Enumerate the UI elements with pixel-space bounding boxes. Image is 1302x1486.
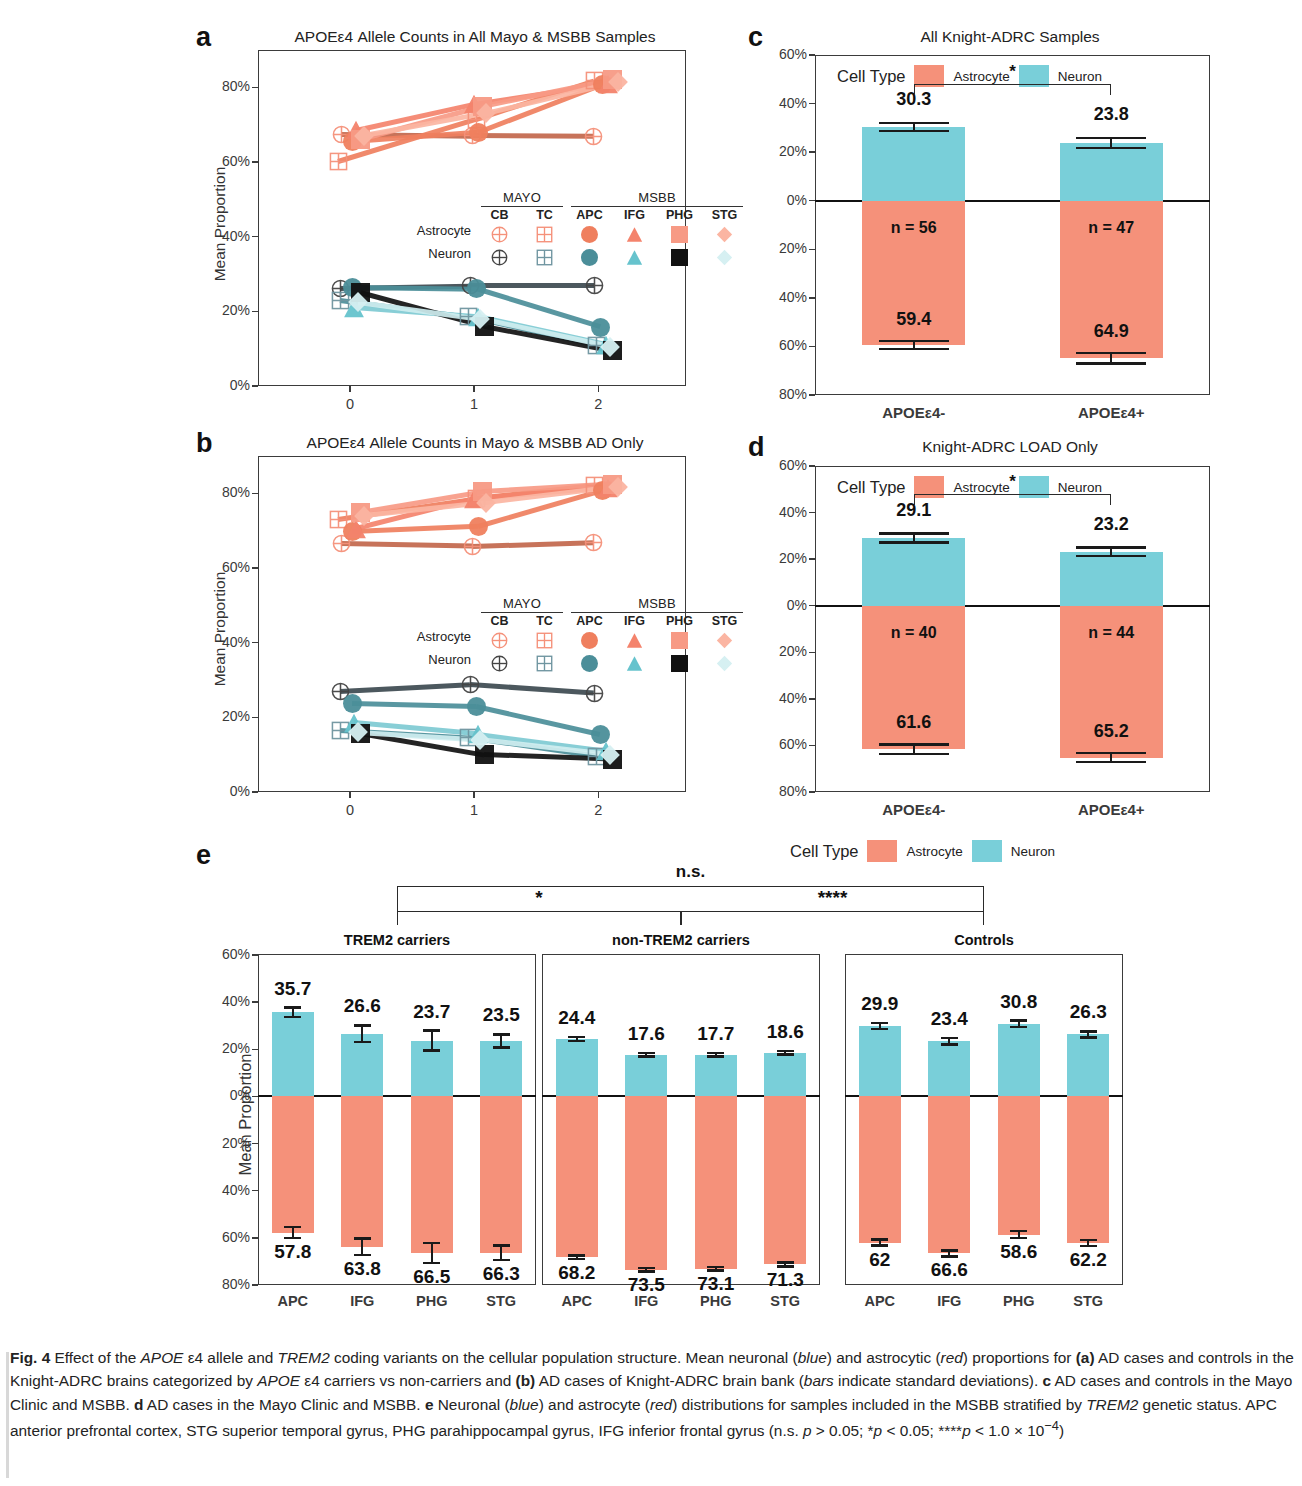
bar-neuron [625, 1055, 667, 1096]
error-bar-cap [777, 1050, 794, 1052]
sample-size-label: n = 44 [1061, 624, 1161, 642]
caption-run: blue [798, 1349, 827, 1366]
bar-astrocyte [411, 1096, 453, 1253]
error-bar-cap [871, 1022, 888, 1024]
error-bar-cap [354, 1237, 371, 1239]
caption-run: Effect of the [50, 1349, 140, 1366]
bar-neuron [272, 1012, 314, 1096]
bar-neuron [556, 1039, 598, 1097]
bar-neuron [998, 1024, 1040, 1097]
caption-run: TREM2 [278, 1349, 330, 1366]
panel-e-cell-type-legend: Cell TypeAstrocyteNeuron [790, 840, 1055, 862]
error-bar-line [431, 1031, 433, 1051]
bar-value-label: 59.4 [864, 309, 964, 330]
error-bar-cap [941, 1255, 958, 1257]
y-tick-label: 60% [194, 946, 250, 962]
x-category-label: STG [735, 1293, 835, 1309]
error-bar-cap [284, 1016, 301, 1018]
error-bar-cap [1010, 1019, 1027, 1021]
caption-run: (b) [516, 1372, 536, 1389]
bar-value-label: 61.6 [864, 712, 964, 733]
legend-swatch-astrocyte [867, 840, 897, 862]
caption-run: < 1.0 × 10 [971, 1422, 1045, 1439]
bar-astrocyte [859, 1096, 901, 1242]
facet-strip-label: TREM2 carriers [258, 925, 536, 955]
error-bar-cap [1010, 1026, 1027, 1028]
caption-run: p [874, 1422, 883, 1439]
error-bar-cap [493, 1259, 510, 1261]
bar-astrocyte [1067, 1096, 1109, 1243]
caption-run: ) and astrocyte ( [539, 1396, 650, 1413]
error-bar-cap [1010, 1230, 1027, 1232]
bar-astrocyte [272, 1096, 314, 1232]
error-bar-cap [871, 1028, 888, 1030]
significance-label: * [973, 472, 1053, 492]
panel-e-data-layer: Cell TypeAstrocyteNeuron60%40%20%0%20%40… [0, 0, 1302, 1340]
error-bar-cap [568, 1036, 585, 1038]
significance-bracket [681, 911, 984, 925]
facet-strip-label: non-TREM2 carriers [542, 925, 820, 955]
bar-astrocyte [341, 1096, 383, 1246]
caption-run: ) [1059, 1422, 1064, 1439]
caption-run: APOE [257, 1372, 300, 1389]
error-bar-cap [638, 1270, 655, 1272]
sample-size-label: n = 56 [864, 219, 964, 237]
significance-label: **** [763, 887, 903, 909]
bar-astrocyte [480, 1096, 522, 1252]
error-bar-cap [1080, 1245, 1097, 1247]
y-tick-label: 40% [194, 1182, 250, 1198]
caption-run: red [650, 1396, 672, 1413]
bar-neuron [1067, 1034, 1109, 1096]
error-bar-cap [871, 1244, 888, 1246]
legend-label-neuron: Neuron [1011, 844, 1055, 859]
bar-astrocyte [556, 1096, 598, 1257]
x-category-label: APOEε4- [844, 404, 984, 421]
error-bar-cap [568, 1254, 585, 1256]
error-bar-cap [707, 1269, 724, 1271]
bar-value-label: 65.2 [1061, 721, 1161, 742]
error-bar-cap [777, 1261, 794, 1263]
significance-bracket [914, 494, 1112, 505]
error-bar-cap [1010, 1237, 1027, 1239]
bar-neuron [695, 1055, 737, 1097]
bar-value-label: 71.3 [735, 1269, 835, 1291]
caption-run: p [962, 1422, 971, 1439]
error-bar-cap [493, 1033, 510, 1035]
error-bar-cap [941, 1043, 958, 1045]
error-bar-cap [1080, 1036, 1097, 1038]
caption-run: bars [804, 1372, 834, 1389]
error-bar-line [431, 1243, 433, 1263]
legend-label-neuron: Neuron [1058, 480, 1102, 495]
error-bar-line [361, 1239, 363, 1256]
error-bar-cap [777, 1053, 794, 1055]
significance-label: * [973, 62, 1053, 82]
error-bar-cap [777, 1265, 794, 1267]
error-bar-cap [423, 1242, 440, 1244]
error-bar-cap [638, 1052, 655, 1054]
x-category-label: APOEε4- [844, 801, 984, 818]
significance-bracket [397, 911, 681, 925]
error-bar-cap [941, 1249, 958, 1251]
bar-astrocyte [928, 1096, 970, 1253]
bar-value-label: 18.6 [735, 1021, 835, 1043]
caption-run: ε4 carriers vs non-carriers and [300, 1372, 516, 1389]
error-bar-cap [423, 1029, 440, 1031]
bar-value-label: 23.2 [1061, 514, 1161, 535]
legend-title: Cell Type [837, 478, 905, 497]
caption-run: indicate standard deviations). [834, 1372, 1043, 1389]
legend-swatch-neuron [972, 840, 1002, 862]
error-bar-cap [1080, 1030, 1097, 1032]
figure-caption: Fig. 4 Effect of the APOE ε4 allele and … [10, 1346, 1294, 1443]
bar-value-label: 64.9 [1061, 321, 1161, 342]
caption-run: c [1043, 1372, 1052, 1389]
significance-label: * [469, 887, 609, 909]
error-bar-cap [871, 1238, 888, 1240]
y-tick-label: 0% [194, 1087, 250, 1103]
error-bar-line [361, 1025, 363, 1042]
legend-label-neuron: Neuron [1058, 69, 1102, 84]
error-bar-cap [568, 1040, 585, 1042]
caption-rule [6, 1352, 9, 1478]
error-bar-cap [1080, 1239, 1097, 1241]
bar-value-label: 26.3 [1038, 1001, 1138, 1023]
error-bar-cap [354, 1041, 371, 1043]
